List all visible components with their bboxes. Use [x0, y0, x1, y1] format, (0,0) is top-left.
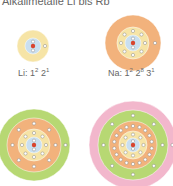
k-electron	[32, 148, 35, 151]
rb-electron	[125, 126, 128, 129]
rb-electron	[144, 158, 147, 161]
k-electron	[17, 128, 20, 131]
rb-electron	[115, 153, 118, 156]
rb-electron	[131, 140, 134, 143]
na-electron	[131, 53, 134, 56]
rb-electron	[113, 147, 116, 150]
rb-electron	[113, 140, 116, 143]
rb-electron	[121, 143, 124, 146]
na-electron	[119, 41, 122, 44]
k-electron	[24, 152, 27, 155]
rb-electron	[125, 161, 128, 164]
rb-electron	[131, 173, 134, 176]
k-electron	[11, 143, 14, 146]
rb-electron	[111, 164, 114, 167]
na-electron	[131, 46, 134, 49]
k-electron	[54, 143, 57, 146]
rb-electron	[131, 114, 134, 117]
rb-electron	[152, 123, 155, 126]
k-electron	[32, 155, 35, 158]
na-config-label: Na: 12 28 31	[108, 67, 155, 78]
rb-electron	[148, 153, 151, 156]
rb-electron	[161, 143, 164, 146]
k-electron	[41, 135, 44, 138]
rb-electron	[131, 133, 134, 136]
rb-electron	[102, 143, 105, 146]
rb-electron	[150, 147, 153, 150]
k-electron	[32, 165, 35, 168]
k-nucleus	[32, 143, 36, 147]
k-electron	[32, 139, 35, 142]
rb-electron	[111, 123, 114, 126]
k-electron	[48, 128, 51, 131]
rb-electron	[139, 151, 142, 154]
na-electron	[131, 37, 134, 40]
rb-electron	[131, 147, 134, 150]
rb-electron	[124, 151, 127, 154]
rb-electron	[131, 154, 134, 157]
k-electron	[48, 159, 51, 162]
rb-electron	[131, 162, 134, 165]
rb-electron	[171, 143, 173, 146]
li-electron	[31, 40, 34, 43]
rb-electron	[131, 124, 134, 127]
rb-electron	[139, 136, 142, 139]
li-nucleus	[31, 44, 35, 48]
rb-electron	[119, 129, 122, 132]
k-electron	[44, 143, 47, 146]
rb-electron	[115, 134, 118, 137]
na-electron	[140, 33, 143, 36]
k-electron	[20, 143, 23, 146]
k-electron	[24, 135, 27, 138]
rb-electron	[144, 129, 147, 132]
rb-electron	[119, 158, 122, 161]
rb-electron	[138, 126, 141, 129]
rb-electron	[142, 143, 145, 146]
li-electron	[43, 44, 46, 47]
na-nucleus	[131, 41, 135, 45]
na-electron	[140, 50, 143, 53]
na-electron	[131, 29, 134, 32]
na-electron	[123, 33, 126, 36]
atom-diagrams	[0, 0, 173, 186]
na-electron	[153, 41, 156, 44]
rb-nucleus	[131, 143, 135, 147]
rb-electron	[150, 140, 153, 143]
li-electron	[31, 49, 34, 52]
k-electron	[17, 159, 20, 162]
rb-electron	[124, 136, 127, 139]
rb-electron	[152, 164, 155, 167]
rb-electron	[138, 161, 141, 164]
k-electron	[32, 131, 35, 134]
rb-electron	[148, 134, 151, 137]
na-electron	[123, 50, 126, 53]
li-config-label: Li: 12 21	[18, 67, 49, 78]
k-electron	[32, 122, 35, 125]
na-electron	[143, 41, 146, 44]
k-electron	[64, 143, 67, 146]
k-electron	[41, 152, 44, 155]
